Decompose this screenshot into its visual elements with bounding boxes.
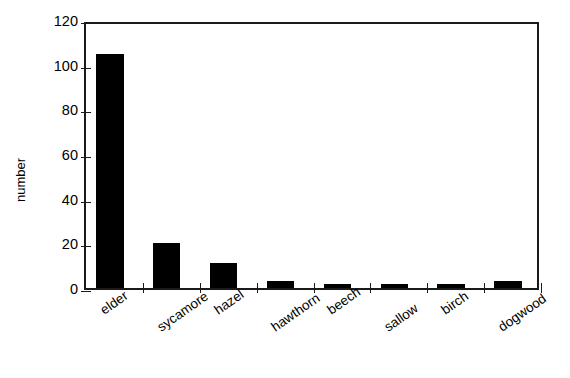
plot-area: [84, 22, 539, 290]
y-tick-label: 120: [44, 14, 78, 29]
y-tick-mark: [81, 68, 91, 69]
bar: [153, 243, 180, 288]
bar: [96, 54, 123, 289]
y-tick-label: 80: [44, 103, 78, 118]
x-category-label: birch: [439, 289, 471, 317]
bars-layer: [86, 24, 537, 288]
bar-chart: number 020406080100120 eldersycamorehaze…: [0, 0, 570, 378]
bar: [210, 263, 237, 288]
y-tick-label: 100: [44, 59, 78, 74]
x-category-label: sallow: [382, 301, 421, 334]
y-tick-mark: [81, 246, 91, 247]
y-tick-label: 40: [44, 193, 78, 208]
x-category-label: sycamore: [155, 289, 211, 334]
bar: [494, 281, 521, 288]
bar: [267, 281, 294, 288]
y-axis-tick-labels: 020406080100120: [44, 0, 78, 378]
y-tick-label: 20: [44, 237, 78, 252]
x-category-label: hawthorn: [269, 291, 323, 334]
y-tick-mark: [81, 23, 91, 24]
x-category-label: hazel: [212, 287, 246, 317]
x-category-label: elder: [98, 289, 131, 318]
y-tick-mark: [81, 202, 91, 203]
y-axis-title: number: [14, 120, 28, 240]
bar: [381, 284, 408, 288]
y-tick-label: 60: [44, 148, 78, 163]
y-tick-mark: [81, 157, 91, 158]
y-tick-label: 0: [44, 282, 78, 297]
bar: [324, 284, 351, 288]
bar: [437, 284, 464, 288]
x-axis-category-labels: eldersycamorehazelhawthornbeechsallowbir…: [84, 292, 539, 378]
y-tick-mark: [81, 112, 91, 113]
x-category-label: dogwood: [496, 292, 549, 335]
